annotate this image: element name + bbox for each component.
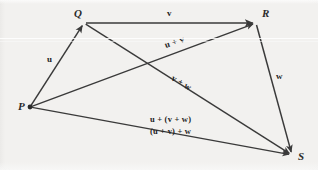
vertex-dot-p [28, 105, 33, 110]
vector-diagram-figure: P Q R S u v w u + v v + w u + (v + w) (u… [0, 0, 318, 170]
arrow-w [257, 25, 292, 152]
vector-label-u-assoc-right: u + (v + w) [150, 115, 191, 124]
vertex-label-s: S [298, 151, 304, 162]
vertex-label-p: P [18, 101, 25, 112]
vertex-label-q: Q [74, 8, 82, 19]
vector-label-u-assoc-left: (u + v) + w [150, 127, 191, 136]
vertex-label-r: R [262, 8, 269, 19]
vector-label-w: w [276, 72, 283, 81]
vector-label-v: v [167, 9, 172, 18]
diagram-canvas [0, 0, 318, 170]
arrow-u [31, 26, 82, 106]
vector-label-u: u [47, 55, 52, 64]
arrow-u-plus-v [32, 24, 253, 106]
